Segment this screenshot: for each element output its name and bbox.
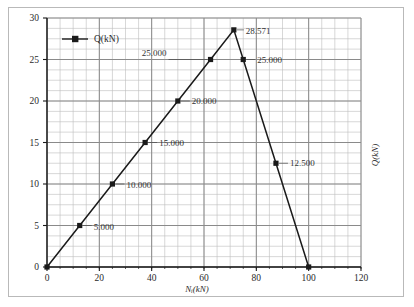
y-tick-label: 25 [30, 55, 40, 65]
legend-label: Q(kN) [94, 34, 119, 45]
x-axis-title: Nᵢ(kN) [184, 284, 208, 294]
y-tick-label: 20 [30, 96, 40, 106]
y-tick-label: 30 [30, 13, 40, 23]
y-tick-label: 10 [30, 179, 40, 189]
data-point-label: 28.571 [246, 26, 271, 36]
data-point-marker [241, 57, 246, 62]
y-tick-label: 15 [30, 138, 40, 148]
data-point-marker [208, 57, 213, 62]
x-tick-label: 120 [354, 273, 369, 283]
data-point-marker [77, 223, 82, 228]
data-point-label: 10.000 [126, 180, 151, 190]
data-point-label: 15.000 [159, 138, 184, 148]
x-tick-label: 80 [252, 273, 262, 283]
axis-tick-marks [43, 18, 361, 271]
legend-marker [72, 36, 78, 42]
data-point-marker [273, 161, 278, 166]
y-tick-label: 0 [34, 262, 39, 272]
data-point-marker [44, 264, 49, 269]
data-point-label: 12.500 [290, 158, 315, 168]
data-point-marker [306, 264, 311, 269]
data-point-label: 25.000 [142, 48, 167, 58]
x-tick-label: 100 [302, 273, 317, 283]
data-point-label: 20.000 [192, 96, 217, 106]
data-point-marker [175, 98, 180, 103]
data-point-marker [110, 181, 115, 186]
x-axis-tick-labels: 020406080100120 [45, 273, 369, 283]
x-tick-label: 40 [147, 273, 157, 283]
x-tick-label: 20 [95, 273, 105, 283]
chart-plot-area: 020406080100120 051015202530 5.00010.000… [0, 0, 414, 307]
x-tick-label: 0 [45, 273, 50, 283]
y-axis-tick-labels: 051015202530 [30, 13, 40, 272]
y-axis-title: Q(kN) [370, 144, 380, 167]
line-chart: 020406080100120 051015202530 5.00010.000… [0, 0, 414, 307]
chart-legend: Q(kN) [62, 34, 119, 45]
y-tick-label: 5 [34, 221, 39, 231]
data-point-label: 5.000 [94, 222, 115, 232]
x-tick-label: 60 [199, 273, 209, 283]
data-point-marker [231, 27, 236, 32]
data-point-label: 25.000 [257, 55, 282, 65]
data-point-marker [143, 140, 148, 145]
